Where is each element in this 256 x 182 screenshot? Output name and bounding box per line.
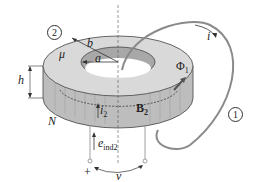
inner-radius-label: a (95, 52, 101, 64)
field-label: B2 (136, 102, 148, 117)
outer-radius-label: b (87, 37, 93, 49)
turns-label: N (48, 115, 56, 127)
plus-sign: + (84, 166, 91, 178)
circuit-1-label: 1 (228, 107, 243, 122)
voltage-label: v (116, 170, 121, 182)
secondary-current-label: i2 (100, 104, 107, 119)
circuit-2-label: 2 (47, 25, 62, 40)
flux-label: Φ1 (176, 60, 189, 75)
loop-current-label: i (207, 30, 210, 42)
permeability-label: μ (59, 48, 65, 60)
emf-label: eind2 (98, 137, 118, 152)
height-label: h (18, 74, 24, 86)
toroid-diagram (0, 0, 256, 182)
